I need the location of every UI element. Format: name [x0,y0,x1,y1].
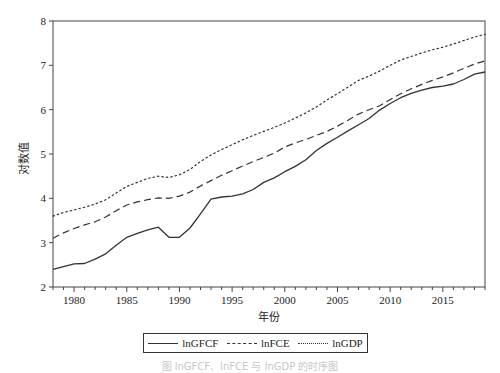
series-lnfce [53,61,485,238]
y-axis-label: 对数值 [17,142,31,175]
legend-label: lnFCE [261,337,290,349]
legend-item-lngdp: lnGDP [298,337,363,349]
legend-label: lnGFCF [182,337,218,349]
x-axis-label: 年份 [258,310,280,324]
figure-caption: 图 lnGFCF、lnFCE 与 lnGDP 的时序图 [0,358,500,373]
dotted-line-icon [298,343,328,344]
series-layer [53,34,485,269]
y-tick-label: 8 [41,15,47,27]
series-lngfcf [53,72,485,269]
legend-item-lngfcf: lnGFCF [148,337,218,349]
legend-item-lnfce: lnFCE [227,337,290,349]
y-tick-label: 3 [41,237,47,249]
x-tick-label: 1990 [168,294,191,306]
solid-line-icon [148,343,178,344]
y-tick-label: 6 [41,104,47,116]
x-tick-label: 2005 [326,294,349,306]
series-lngdp [53,34,485,216]
legend-label: lnGDP [332,337,363,349]
y-tick-label: 4 [41,192,47,204]
x-tick-label: 2015 [432,294,455,306]
legend: lnGFCF lnFCE lnGDP [143,333,368,353]
x-tick-label: 2010 [379,294,402,306]
y-tick-label: 7 [41,59,47,71]
x-axis: 19801985199019952000200520102015 [53,287,485,306]
y-axis: 2345678 [41,15,54,293]
x-tick-label: 1995 [221,294,244,306]
x-tick-label: 2000 [274,294,297,306]
x-tick-label: 1980 [63,294,86,306]
dashed-line-icon [227,343,257,344]
plot-area [53,21,485,287]
line-chart: 2345678 19801985199019952000200520102015… [0,0,500,373]
x-tick-label: 1985 [116,294,139,306]
y-tick-label: 2 [41,281,47,293]
y-tick-label: 5 [41,148,47,160]
